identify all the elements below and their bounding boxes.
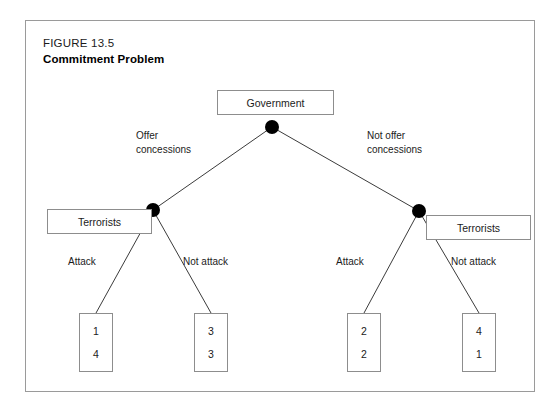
payoff-value-top: 3 [208,326,214,337]
payoff-box: 4 1 [462,313,496,372]
player-label-terrorists-left: Terrorists [78,216,121,228]
action-label-not-offer-concessions-line2: concessions [367,143,422,157]
payoff-value-top: 1 [93,326,99,337]
action-label-not-attack-left: Not attack [183,255,228,269]
player-label-terrorists-right: Terrorists [457,222,500,234]
payoff-box: 2 2 [347,313,381,372]
payoff-value-bottom: 3 [208,349,214,360]
payoff-value-bottom: 2 [361,349,367,360]
player-box-terrorists-left: Terrorists [47,209,152,234]
edge-attack-right [364,211,419,313]
payoff-value-bottom: 1 [476,349,482,360]
payoff-value-bottom: 4 [93,349,99,360]
payoff-box: 1 4 [79,313,113,372]
player-label-government: Government [247,97,305,109]
action-label-attack-left: Attack [68,255,96,269]
figure-container: FIGURE 13.5 Commitment Problem Governmen… [0,0,560,407]
payoff-box: 3 3 [194,313,228,372]
player-box-terrorists-right: Terrorists [426,215,531,240]
action-label-offer-concessions: Offer concessions [136,129,191,156]
action-label-offer-concessions-line1: Offer [136,129,191,143]
player-box-government: Government [217,90,334,115]
action-label-offer-concessions-line2: concessions [136,143,191,157]
action-label-not-offer-concessions: Not offer concessions [367,129,422,156]
payoff-value-top: 2 [361,326,367,337]
decision-node-government[interactable] [265,120,279,134]
action-label-not-attack-right: Not attack [451,255,496,269]
action-label-not-offer-concessions-line1: Not offer [367,129,422,143]
decision-node-terrorists-right[interactable] [412,204,426,218]
figure-frame: FIGURE 13.5 Commitment Problem Governmen… [25,20,535,392]
action-label-attack-right: Attack [336,255,364,269]
payoff-value-top: 4 [476,326,482,337]
